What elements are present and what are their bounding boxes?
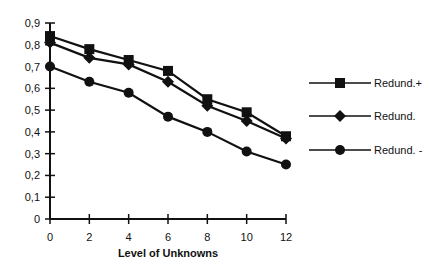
y-tick-label: 0,9: [25, 17, 40, 29]
y-tick-label: 0,6: [25, 82, 40, 94]
legend-item: Redund.: [309, 110, 416, 122]
x-axis-title: Level of Unknowns: [118, 247, 218, 259]
x-tick-label: 6: [165, 231, 171, 243]
diamond-marker: [334, 110, 346, 122]
y-axis: 00,10,20,30,40,50,60,70,80,9: [25, 17, 55, 225]
y-tick-label: 0,3: [25, 148, 40, 160]
x-axis: 024681012: [47, 214, 292, 243]
circle-marker: [281, 160, 291, 170]
y-tick-label: 0: [34, 213, 40, 225]
legend-label: Redund.+: [374, 77, 422, 89]
legend-item: Redund. -: [309, 144, 423, 156]
square-marker: [163, 66, 173, 76]
x-tick-label: 0: [47, 231, 53, 243]
legend-item: Redund.+: [309, 77, 422, 89]
x-tick-label: 4: [126, 231, 132, 243]
line-chart: 00,10,20,30,40,50,60,70,80,9 024681012 L…: [0, 0, 443, 266]
x-tick-label: 8: [204, 231, 210, 243]
y-tick-label: 0,2: [25, 169, 40, 181]
y-tick-label: 0,1: [25, 191, 40, 203]
circle-marker: [84, 77, 94, 87]
circle-marker: [242, 146, 252, 156]
circle-marker: [163, 112, 173, 122]
diamond-marker: [162, 76, 174, 88]
circle-marker: [202, 127, 212, 137]
x-tick-label: 12: [280, 231, 292, 243]
x-tick-label: 2: [86, 231, 92, 243]
legend-label: Redund.: [374, 110, 416, 122]
circle-marker: [335, 145, 345, 155]
y-tick-label: 0,4: [25, 126, 40, 138]
legend-label: Redund. -: [374, 144, 423, 156]
y-tick-label: 0,5: [25, 104, 40, 116]
series-group: [44, 31, 292, 169]
circle-marker: [45, 62, 55, 72]
circle-marker: [124, 88, 134, 98]
y-tick-label: 0,8: [25, 39, 40, 51]
legend: Redund.+Redund.Redund. -: [309, 77, 423, 156]
series-line: [44, 37, 292, 145]
x-tick-label: 10: [241, 231, 253, 243]
square-marker: [335, 78, 345, 88]
y-tick-label: 0,7: [25, 61, 40, 73]
